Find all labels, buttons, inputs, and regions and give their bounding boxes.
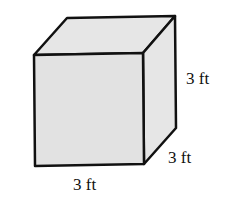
height-label: 3 ft — [186, 69, 209, 88]
width-label: 3 ft — [73, 175, 96, 194]
cube-diagram: 3 ft 3 ft 3 ft — [0, 0, 229, 205]
depth-label: 3 ft — [168, 148, 191, 167]
cube-front-face — [34, 53, 144, 166]
